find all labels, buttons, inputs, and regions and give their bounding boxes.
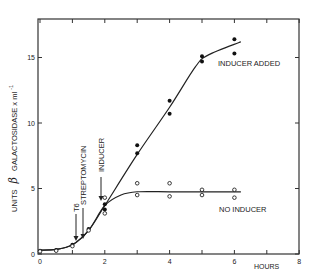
- data-point-open: [71, 244, 75, 248]
- data-points: [38, 37, 236, 253]
- data-point-open: [135, 193, 139, 197]
- curve-no-inducer: [40, 192, 241, 251]
- data-point-open: [87, 229, 91, 233]
- data-point-filled: [168, 112, 172, 116]
- x-axis-label: HOURS: [254, 263, 280, 270]
- data-point-filled: [200, 59, 204, 63]
- data-point-open: [54, 249, 58, 253]
- data-point-filled: [135, 143, 139, 147]
- data-point-open: [233, 196, 237, 200]
- x-tick-label: 0: [38, 258, 42, 265]
- data-point-filled: [232, 37, 236, 41]
- annotation-inducer: INDUCER: [97, 137, 106, 172]
- curve-inducer-added: [40, 42, 241, 250]
- data-point-open: [168, 181, 172, 185]
- x-tick-label: 8: [297, 258, 301, 265]
- arrow-head-icon: [74, 236, 79, 241]
- chart: 02468051015 UNITS β GALACTOSIDASE x ml -…: [0, 0, 310, 278]
- data-point-open: [135, 181, 139, 185]
- fit-curves: [40, 42, 241, 250]
- y-tick-label: 10: [27, 120, 35, 127]
- y-tick-label: 0: [31, 251, 35, 258]
- axis-ticks: [38, 19, 299, 254]
- data-point-filled: [135, 151, 139, 155]
- data-point-filled: [103, 207, 107, 211]
- data-point-open: [103, 212, 107, 216]
- data-point-open: [38, 250, 42, 254]
- x-tick-label: 4: [168, 258, 172, 265]
- data-point-open: [168, 195, 172, 199]
- x-tick-label: 6: [232, 258, 236, 265]
- y-axis-label: UNITS β GALACTOSIDASE x ml -1: [7, 85, 20, 212]
- x-tick-label: 2: [103, 258, 107, 265]
- data-point-open: [200, 188, 204, 192]
- y-tick-label: 15: [27, 54, 35, 61]
- data-point-filled: [232, 52, 236, 56]
- legend-no-inducer: NO INDUCER: [219, 205, 267, 214]
- plot-frame: [38, 19, 299, 254]
- data-point-open: [233, 188, 237, 192]
- annotation-streptomycin: STREPTOMYCIN: [79, 146, 88, 205]
- data-point-open: [200, 193, 204, 197]
- axis-tick-labels: 02468051015: [27, 54, 301, 265]
- data-point-filled: [168, 99, 172, 103]
- y-tick-label: 5: [31, 185, 35, 192]
- data-point-filled: [103, 202, 107, 206]
- legend-inducer-added: INDUCER ADDED: [218, 59, 281, 68]
- data-point-filled: [200, 54, 204, 58]
- data-point-open: [103, 196, 107, 200]
